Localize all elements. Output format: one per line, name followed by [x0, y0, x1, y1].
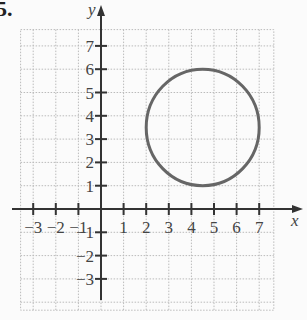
x-axis-label: x	[290, 211, 299, 230]
y-tick-label: 1	[86, 177, 95, 196]
coordinate-plane: 5.xy−3−2−11234567−3−2−11234567	[0, 0, 307, 320]
x-tick-label: 5	[210, 218, 219, 237]
grid-frame	[21, 30, 274, 311]
y-tick-label: 3	[86, 130, 95, 149]
y-tick-label: 7	[86, 37, 95, 56]
x-tick-label: 1	[119, 218, 128, 237]
y-tick-label: 2	[86, 153, 95, 172]
x-tick-label: −3	[24, 218, 42, 237]
x-tick-label: −2	[47, 218, 65, 237]
y-axis-label: y	[86, 0, 96, 19]
x-tick-label: 2	[142, 218, 151, 237]
y-axis-arrow-icon	[97, 5, 105, 16]
y-tick-label: −3	[76, 270, 94, 289]
y-tick-label: 6	[86, 60, 95, 79]
y-tick-label: −1	[76, 223, 94, 242]
x-tick-label: 7	[255, 218, 264, 237]
y-tick-label: −2	[76, 247, 94, 266]
x-tick-label: 3	[165, 218, 174, 237]
y-tick-label: 4	[86, 107, 95, 126]
graph-figure: 5.xy−3−2−11234567−3−2−11234567	[0, 0, 307, 320]
circle-graph	[146, 69, 259, 186]
x-tick-label: 6	[232, 218, 241, 237]
x-tick-label: 4	[187, 218, 196, 237]
problem-number: 5.	[0, 0, 13, 21]
y-tick-label: 5	[86, 84, 95, 103]
